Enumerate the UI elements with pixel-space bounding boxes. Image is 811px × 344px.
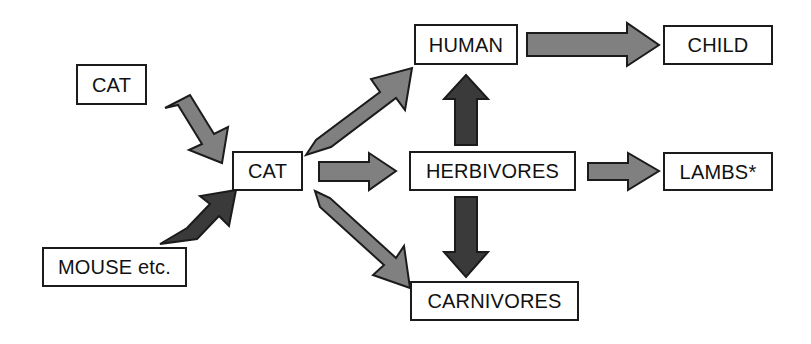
node-label-carnivores: CARNIVORES — [427, 291, 561, 311]
arrow-catcenter-to-herbivores — [319, 153, 396, 190]
node-mouse-source[interactable]: MOUSE etc. — [42, 247, 187, 287]
arrow-herbivores-to-lambs — [588, 153, 659, 190]
arrow-mouse-to-catcenter — [160, 190, 236, 244]
node-label-herbivores: HERBIVORES — [426, 161, 559, 181]
node-label-child: CHILD — [687, 35, 748, 55]
arrow-catcenter-to-carnivores — [315, 191, 410, 288]
node-cat-source[interactable]: CAT — [76, 64, 147, 105]
node-cat-center[interactable]: CAT — [232, 151, 303, 191]
arrow-human-to-child — [527, 23, 659, 66]
node-label-cat-center: CAT — [248, 161, 287, 181]
node-lambs[interactable]: LAMBS* — [663, 152, 773, 191]
node-label-mouse-source: MOUSE etc. — [58, 257, 171, 277]
arrow-catcenter-to-human — [306, 68, 412, 155]
node-herbivores[interactable]: HERBIVORES — [409, 151, 576, 191]
node-human[interactable]: HUMAN — [414, 24, 518, 65]
node-carnivores[interactable]: CARNIVORES — [410, 281, 579, 321]
node-label-lambs: LAMBS* — [680, 162, 757, 182]
arrow-herbivores-to-human — [444, 75, 488, 145]
arrow-cat-to-catcenter — [165, 95, 228, 163]
node-label-human: HUMAN — [429, 35, 503, 55]
node-label-cat-source: CAT — [92, 75, 131, 95]
diagram-canvas: CAT MOUSE etc. CAT HUMAN CHILD HERBIVORE… — [0, 0, 811, 344]
arrow-herbivores-to-carnivores — [444, 197, 488, 277]
node-child[interactable]: CHILD — [663, 25, 773, 65]
